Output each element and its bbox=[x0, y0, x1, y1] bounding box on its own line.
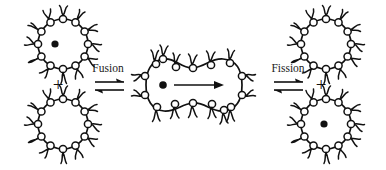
head-group-icon bbox=[238, 91, 245, 98]
right-equilibrium-arrow bbox=[274, 79, 303, 94]
tail-icon bbox=[40, 149, 49, 158]
head-group-icon bbox=[335, 142, 342, 149]
tail-icon bbox=[246, 90, 256, 96]
tail-icon bbox=[43, 89, 51, 99]
tail-icon bbox=[28, 23, 38, 30]
tail-icon bbox=[324, 153, 330, 164]
head-group-icon bbox=[141, 91, 148, 98]
head-group-icon bbox=[189, 64, 196, 71]
tail-icon bbox=[291, 103, 301, 110]
tail-icon bbox=[220, 114, 228, 125]
tail-icon bbox=[351, 25, 361, 32]
tail-icon bbox=[291, 23, 301, 30]
head-group-icon bbox=[59, 15, 66, 22]
head-group-icon bbox=[344, 133, 351, 140]
head-group-icon bbox=[72, 99, 79, 106]
tail-icon bbox=[75, 69, 83, 79]
tail-icon bbox=[292, 138, 302, 142]
head-group-icon bbox=[159, 55, 166, 62]
head-group-icon bbox=[301, 133, 308, 140]
head-group-icon bbox=[59, 145, 66, 152]
head-group-icon bbox=[344, 28, 351, 35]
head-group-icon bbox=[81, 53, 88, 60]
head-group-icon bbox=[335, 19, 342, 26]
tail-icon bbox=[160, 45, 168, 55]
tail-icon bbox=[77, 90, 85, 100]
head-group-icon bbox=[81, 108, 88, 115]
tail-icon bbox=[92, 44, 102, 52]
head-group-icon bbox=[335, 99, 342, 106]
fused-vesicle bbox=[132, 45, 256, 124]
head-group-icon bbox=[220, 106, 227, 113]
tail-icon bbox=[132, 90, 142, 96]
head-group-icon bbox=[34, 40, 41, 47]
head-group-icon bbox=[347, 120, 354, 127]
tail-icon bbox=[351, 105, 361, 112]
head-group-icon bbox=[310, 62, 317, 69]
tail-icon bbox=[132, 75, 142, 82]
head-group-icon bbox=[335, 62, 342, 69]
head-group-icon bbox=[38, 133, 45, 140]
head-group-icon bbox=[172, 63, 179, 70]
head-group-icon bbox=[84, 120, 91, 127]
tail-icon bbox=[351, 138, 361, 146]
tail-icon bbox=[77, 10, 85, 20]
head-group-icon bbox=[208, 100, 215, 107]
tail-icon bbox=[88, 105, 98, 112]
head-group-icon bbox=[322, 145, 329, 152]
head-group-icon bbox=[153, 103, 160, 110]
head-group-icon bbox=[344, 53, 351, 60]
head-group-icon bbox=[72, 19, 79, 26]
tail-icon bbox=[173, 53, 180, 64]
tail-icon bbox=[61, 153, 67, 164]
head-group-icon bbox=[47, 142, 54, 149]
tail-icon bbox=[189, 107, 198, 118]
bottom-right-vesicle bbox=[288, 86, 365, 164]
head-group-icon bbox=[301, 28, 308, 35]
bottom-left-vesicle bbox=[25, 86, 102, 164]
tail-icon bbox=[25, 37, 35, 45]
tail-icon bbox=[75, 149, 83, 159]
head-group-icon bbox=[347, 40, 354, 47]
head-group-icon bbox=[84, 40, 91, 47]
tail-icon bbox=[92, 124, 102, 132]
top-left-vesicle bbox=[25, 6, 102, 84]
tail-icon bbox=[323, 6, 331, 16]
tail-icon bbox=[306, 9, 314, 19]
head-group-icon bbox=[171, 100, 178, 107]
head-group-icon bbox=[322, 95, 329, 102]
head-group-icon bbox=[322, 15, 329, 22]
head-group-icon bbox=[226, 59, 233, 66]
tail-icon bbox=[351, 58, 361, 66]
tail-icon bbox=[151, 50, 159, 61]
tail-icon bbox=[153, 111, 161, 122]
head-group-icon bbox=[301, 53, 308, 60]
tail-icon bbox=[338, 149, 346, 159]
cargo-particle bbox=[159, 81, 167, 89]
tail-icon bbox=[306, 89, 314, 99]
vesicle-membrane bbox=[38, 99, 88, 149]
tail-icon bbox=[355, 124, 365, 132]
head-group-icon bbox=[81, 28, 88, 35]
head-group-icon bbox=[47, 62, 54, 69]
head-group-icon bbox=[310, 99, 317, 106]
tail-icon bbox=[303, 149, 312, 158]
head-group-icon bbox=[297, 40, 304, 47]
head-group-icon bbox=[207, 61, 214, 68]
head-group-icon bbox=[152, 60, 159, 67]
tail-icon bbox=[355, 44, 365, 52]
cargo-particle bbox=[320, 120, 327, 127]
vesicle-fusion-fission-figure: + bbox=[0, 0, 386, 170]
tail-icon bbox=[340, 10, 348, 20]
head-group-icon bbox=[72, 142, 79, 149]
head-group-icon bbox=[310, 19, 317, 26]
tail-icon bbox=[60, 6, 68, 16]
head-group-icon bbox=[310, 142, 317, 149]
tail-icon bbox=[228, 49, 235, 60]
head-group-icon bbox=[72, 62, 79, 69]
head-group-icon bbox=[189, 99, 196, 106]
head-group-icon bbox=[38, 108, 45, 115]
tail-icon bbox=[340, 90, 348, 100]
tail-icon bbox=[288, 37, 298, 45]
tail-icon bbox=[29, 58, 39, 62]
